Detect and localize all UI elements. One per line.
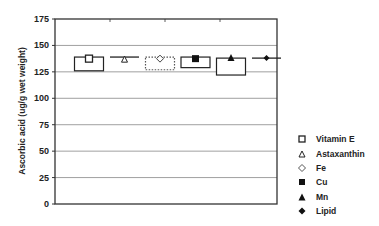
legend-label: Lipid (316, 206, 336, 216)
plot-frame (55, 19, 277, 204)
filled-triangle-icon (296, 191, 308, 203)
legend-item-fe: Fe (296, 161, 365, 175)
series-vitamin-e (75, 55, 104, 71)
y-axis-ticks: 0255075100125150175 (34, 14, 220, 209)
series-fe (146, 55, 175, 70)
y-tick-label: 150 (34, 40, 49, 50)
filled-diamond-icon (296, 205, 308, 217)
y-tick-label: 175 (34, 14, 49, 24)
open-triangle-icon (296, 148, 308, 160)
legend-item-lipid: Lipid (296, 204, 365, 218)
series-mn (217, 54, 246, 75)
y-tick-label: 125 (34, 67, 49, 77)
legend-label: Astaxanthin (316, 149, 365, 159)
y-tick-label: 75 (39, 120, 49, 130)
y-tick-label: 50 (39, 146, 49, 156)
y-tick-label: 100 (34, 93, 49, 103)
filled-diamond-icon (264, 55, 270, 61)
open-square-icon (296, 133, 308, 145)
legend-item-vitamin-e: Vitamin E (296, 132, 365, 146)
legend-label: Mn (316, 192, 328, 202)
legend: Vitamin E Astaxanthin Fe Cu Mn Lipid (296, 132, 365, 218)
series-cu (181, 55, 210, 67)
open-square-icon (86, 55, 93, 62)
filled-square-icon (192, 55, 199, 62)
y-tick-label: 0 (44, 199, 49, 209)
filled-square-icon (296, 176, 308, 188)
legend-label: Vitamin E (316, 134, 355, 144)
legend-item-mn: Mn (296, 190, 365, 204)
legend-item-astaxanthin: Astaxanthin (296, 146, 365, 160)
legend-label: Cu (316, 177, 327, 187)
y-axis-label: Ascorbic acid (ug/g wet weight) (17, 47, 27, 175)
legend-item-cu: Cu (296, 175, 365, 189)
open-diamond-icon (296, 162, 308, 174)
legend-label: Fe (316, 163, 326, 173)
y-tick-label: 25 (39, 173, 49, 183)
series-astaxanthin (110, 56, 139, 62)
